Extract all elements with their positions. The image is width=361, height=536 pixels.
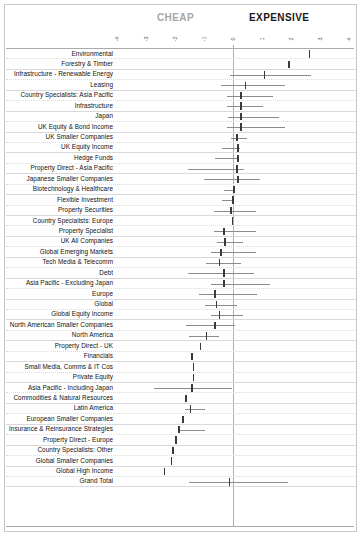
chart-row: Property Direct - UK: [5, 341, 358, 351]
row-category-label: Property Specialist: [59, 226, 113, 236]
median-marker: [220, 249, 222, 256]
chart-row: Global Equity Income: [5, 310, 358, 320]
median-marker: [223, 280, 225, 287]
range-whisker: [227, 106, 263, 107]
chart-row: Debt: [5, 268, 358, 278]
range-whisker: [188, 273, 255, 274]
median-marker: [240, 123, 242, 130]
chart-row: UK Equity & Bond Income: [5, 122, 358, 132]
chart-page: CHEAP EXPENSIVE -4-3-2-101234 Environmen…: [0, 0, 361, 536]
chart-row: Environmental: [5, 49, 358, 59]
chart-row: Tech Media & Telecomm: [5, 258, 358, 268]
chart-row: Asia Pacific - Excluding Japan: [5, 279, 358, 289]
row-category-label: Global Equity Income: [51, 309, 113, 319]
row-category-label: Asia Pacific - Including Japan: [28, 383, 113, 393]
expensive-axis-annotation: EXPENSIVE: [249, 12, 309, 23]
range-whisker: [189, 482, 288, 483]
row-category-label: Hedge Funds: [74, 153, 113, 163]
chart-row: Global High Income: [5, 467, 358, 477]
row-category-label: Japanese Smaller Companies: [26, 174, 113, 184]
chart-row: Country Specialists: Asia Pacific: [5, 91, 358, 101]
chart-row: European Smaller Companies: [5, 414, 358, 424]
median-marker: [309, 50, 311, 57]
range-whisker: [215, 158, 238, 159]
median-marker: [171, 457, 173, 464]
x-axis-tick-labels: -4-3-2-101234: [5, 32, 358, 46]
chart-row: Insurance & Reinsurance Strategies: [5, 425, 358, 435]
chart-row: Japan: [5, 112, 358, 122]
row-category-label: Global: [94, 299, 113, 309]
row-category-label: Latin America: [74, 403, 113, 413]
chart-row: North American Smaller Companies: [5, 320, 358, 330]
median-marker: [240, 92, 242, 99]
chart-row: Property Securities: [5, 206, 358, 216]
median-marker: [214, 322, 216, 329]
median-marker: [175, 436, 177, 443]
row-separator: [6, 486, 356, 487]
range-whisker: [230, 75, 311, 76]
row-category-label: UK Equity & Bond Income: [38, 122, 113, 132]
median-marker: [229, 478, 231, 485]
range-whisker: [179, 430, 205, 431]
median-marker: [236, 165, 238, 172]
row-category-label: Grand Total: [80, 476, 113, 486]
median-marker: [237, 155, 239, 162]
median-marker: [264, 71, 266, 78]
row-category-label: Property Direct - Europe: [43, 435, 113, 445]
chart-row: Global: [5, 300, 358, 310]
chart-row: Small Media, Comms & IT Cos: [5, 362, 358, 372]
median-marker: [245, 82, 247, 89]
chart-row: Europe: [5, 289, 358, 299]
x-tick-label: -4: [110, 32, 124, 46]
median-marker: [240, 102, 242, 109]
median-marker: [236, 134, 238, 141]
chart-row: Private Equity: [5, 373, 358, 383]
chart-row: Asia Pacific - Including Japan: [5, 383, 358, 393]
chart-row: Property Direct - Asia Pacific: [5, 164, 358, 174]
chart-frame: CHEAP EXPENSIVE -4-3-2-101234 Environmen…: [4, 4, 357, 532]
row-category-label: UK Smaller Companies: [46, 132, 113, 142]
chart-row: Global Smaller Companies: [5, 456, 358, 466]
chart-row: Japanese Smaller Companies: [5, 174, 358, 184]
range-whisker: [211, 284, 270, 285]
row-category-label: Property Securities: [58, 205, 113, 215]
median-marker: [193, 363, 195, 370]
median-marker: [223, 228, 225, 235]
chart-row: UK All Companies: [5, 237, 358, 247]
median-marker: [232, 217, 234, 224]
range-whisker: [214, 211, 256, 212]
median-marker: [191, 384, 193, 391]
median-marker: [233, 186, 235, 193]
row-category-label: UK All Companies: [61, 236, 113, 246]
row-category-label: Infrastructure: [75, 101, 113, 111]
range-whisker: [231, 138, 247, 139]
row-category-label: Property Direct - Asia Pacific: [31, 163, 113, 173]
row-category-label: Biotechnology & Healthcare: [33, 184, 113, 194]
chart-row: Financials: [5, 352, 358, 362]
range-whisker: [206, 263, 241, 264]
median-marker: [182, 416, 184, 423]
chart-row: Grand Total: [5, 477, 358, 487]
chart-row: Hedge Funds: [5, 153, 358, 163]
row-category-label: Small Media, Comms & IT Cos: [24, 362, 113, 372]
row-category-label: Leasing: [90, 80, 113, 90]
median-marker: [178, 426, 180, 433]
row-category-label: Country Specialists: Asia Pacific: [20, 90, 113, 100]
range-whisker: [204, 179, 261, 180]
median-marker: [237, 176, 239, 183]
median-marker: [237, 144, 239, 151]
chart-row: Property Specialist: [5, 226, 358, 236]
median-marker: [200, 343, 202, 350]
median-marker: [288, 61, 290, 68]
median-marker: [206, 332, 208, 339]
median-marker: [216, 301, 218, 308]
cheap-axis-annotation: CHEAP: [157, 12, 194, 23]
median-marker: [164, 468, 166, 475]
range-whisker: [154, 388, 232, 389]
row-category-label: Country Specialists: Europe: [33, 216, 113, 226]
median-marker: [193, 374, 195, 381]
range-whisker: [211, 315, 243, 316]
row-category-label: Global Smaller Companies: [36, 456, 113, 466]
median-marker: [230, 207, 232, 214]
row-category-label: Debt: [99, 268, 113, 278]
